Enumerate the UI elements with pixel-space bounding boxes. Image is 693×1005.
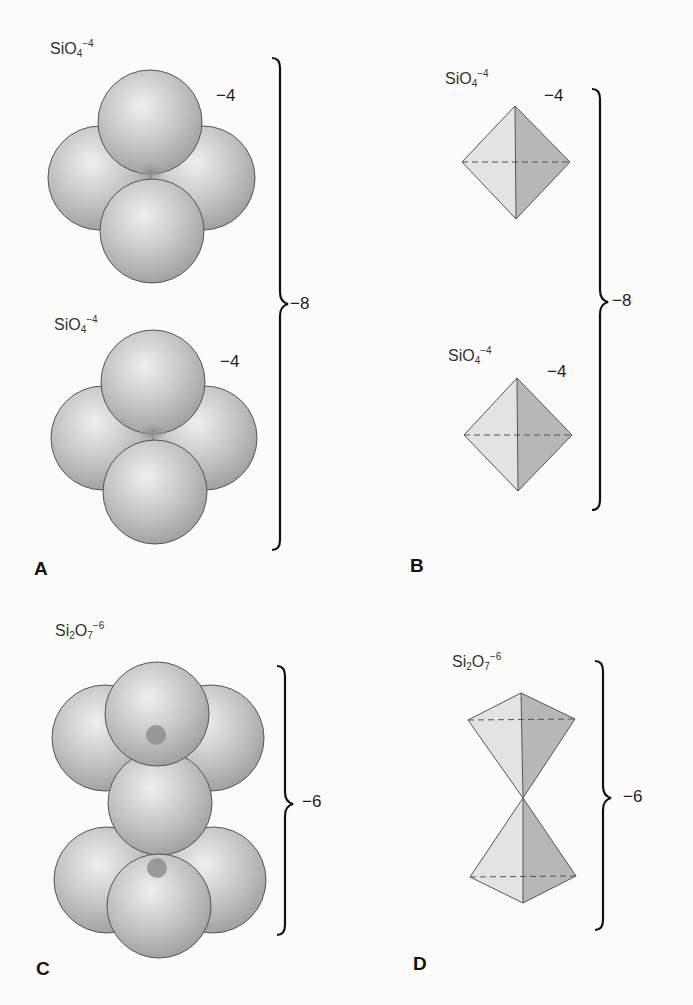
panel-b-upper-formula: SiO4−4 [445,68,489,89]
panel-d-total-charge: −6 [623,787,642,807]
oxygen-sphere-bottom [103,440,207,544]
panel-b-brace [592,89,608,510]
panel-d-brace [595,661,611,930]
silicon-atom [140,424,166,440]
panel-a-total-charge: −8 [290,294,309,314]
panel-b-lower-formula: SiO4−4 [448,345,492,366]
panel-b-letter: B [410,555,424,577]
oxygen-sphere-bottom [100,179,204,283]
silicon-atom-upper [146,725,166,745]
panel-a-brace [272,58,288,550]
panel-a-letter: A [34,558,48,580]
silicon-atom-lower [147,858,167,878]
oxygen-sphere-top [101,330,205,434]
panel-a-lower-charge: −4 [220,352,239,372]
panel-a-upper-formula: SiO4−4 [50,38,94,59]
panel-b-lower-charge: −4 [547,362,566,382]
panel-b-lower-tetrahedron [464,378,572,491]
panel-d-upper-tetrahedron [468,693,575,798]
oxygen-sphere-top [98,70,202,174]
panel-b-total-charge: −8 [612,291,631,311]
panel-c-total-charge: −6 [302,792,321,812]
panel-c-si2o7-spheres [52,662,266,958]
panel-b-upper-charge: −4 [544,86,563,106]
bridging-oxygen-sphere [108,751,212,855]
oxygen-sphere-top [105,662,209,766]
panel-b-upper-tetrahedron [462,106,570,219]
panel-a-lower-formula: SiO4−4 [54,314,98,335]
panel-c-brace [277,666,293,935]
panel-d-letter: D [413,953,427,975]
panel-d-lower-tetrahedron [470,798,576,903]
panel-c-letter: C [36,958,50,980]
panel-a-upper-charge: −4 [216,86,235,106]
silicate-figure [0,0,693,1005]
panel-c-formula: Si2O7−6 [55,620,104,641]
panel-d-formula: Si2O7−6 [452,651,501,672]
silicon-atom [138,164,164,180]
